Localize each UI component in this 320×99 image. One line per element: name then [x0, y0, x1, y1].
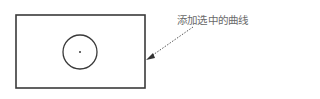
annotation-label: 添加选中的曲线 [177, 12, 248, 27]
arrow-head-icon [146, 53, 155, 60]
leader-arrow-line [150, 27, 193, 57]
center-point [79, 51, 81, 53]
